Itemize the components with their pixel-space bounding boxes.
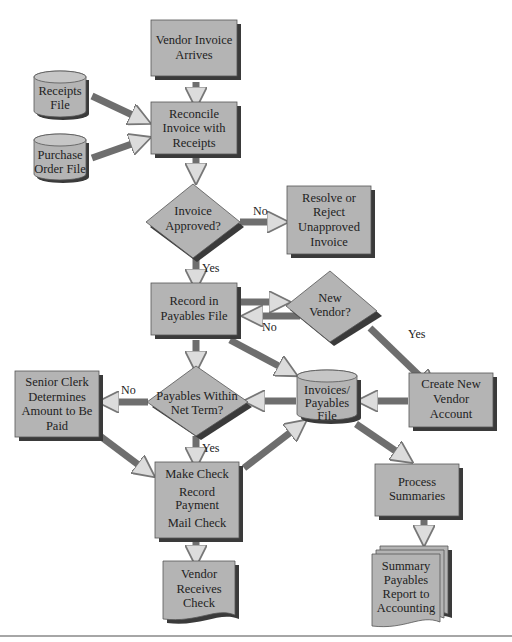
- svg-text:Vendor?: Vendor?: [309, 305, 351, 319]
- edge-record-to-file: [230, 340, 290, 372]
- node-invoice-approved-decision: Invoice Approved?: [146, 184, 244, 262]
- svg-text:Vendor: Vendor: [433, 392, 470, 406]
- edge-po-to-reconcile: [92, 140, 143, 158]
- svg-text:Report to: Report to: [383, 587, 430, 601]
- svg-text:Invoice: Invoice: [310, 235, 348, 249]
- svg-text:Receipts: Receipts: [38, 84, 81, 98]
- svg-text:Invoice: Invoice: [174, 204, 212, 218]
- svg-text:Receives: Receives: [176, 582, 221, 596]
- svg-text:Payables Within: Payables Within: [156, 389, 238, 403]
- edge-label-approved-yes: Yes: [202, 261, 220, 275]
- node-process-summaries: Process Summaries: [375, 464, 463, 520]
- edge-file-to-summaries: [356, 424, 406, 458]
- svg-text:New: New: [318, 291, 342, 305]
- svg-text:Record in: Record in: [170, 294, 220, 308]
- svg-text:Invoice with: Invoice with: [163, 121, 227, 135]
- edge-label-new-vendor-yes: Yes: [408, 327, 426, 341]
- flowchart-canvas: Vendor Invoice Arrives Receipts File Pur…: [0, 0, 512, 642]
- node-reconcile-invoice: Reconcile Invoice with Receipts: [151, 102, 241, 158]
- svg-text:Process: Process: [398, 475, 436, 489]
- svg-text:Determines: Determines: [28, 390, 86, 404]
- edge-makecheck-to-file: [244, 425, 300, 468]
- node-payables-within-decision: Payables Within Net Term?: [147, 366, 252, 440]
- node-make-check: Make Check Record Payment Mail Check: [155, 462, 243, 542]
- edge-clerk-to-makecheck: [100, 436, 148, 472]
- node-invoices-payables-file: Invoices/ Payables File: [297, 370, 361, 424]
- svg-text:Reconcile: Reconcile: [169, 107, 219, 121]
- svg-text:Receipts: Receipts: [172, 136, 215, 150]
- svg-text:Create New: Create New: [421, 377, 480, 391]
- svg-text:Payables: Payables: [305, 396, 350, 410]
- edge-label-approved-no: No: [253, 204, 268, 218]
- svg-text:File: File: [317, 409, 337, 423]
- svg-text:Record: Record: [179, 485, 216, 499]
- svg-text:Summary: Summary: [382, 559, 431, 573]
- edge-label-within-no: No: [121, 383, 136, 397]
- node-summary-payables-report: Summary Payables Report to Accounting: [372, 546, 452, 627]
- node-vendor-invoice-arrives: Vendor Invoice Arrives: [151, 20, 241, 80]
- svg-text:Account: Account: [430, 407, 473, 421]
- svg-text:Payment: Payment: [175, 498, 219, 512]
- svg-text:Make Check: Make Check: [165, 467, 229, 481]
- svg-text:Order File: Order File: [34, 162, 86, 176]
- node-create-vendor-account: Create New Vendor Account: [409, 373, 497, 431]
- edge-label-new-vendor-no: No: [262, 320, 277, 334]
- svg-text:Net Term?: Net Term?: [171, 403, 224, 417]
- node-senior-clerk: Senior Clerk Determines Amount to Be Pai…: [15, 371, 103, 441]
- svg-text:Resolve or: Resolve or: [302, 191, 357, 205]
- node-receipts-file: Receipts File: [34, 71, 89, 120]
- svg-text:Invoices/: Invoices/: [304, 383, 350, 397]
- node-purchase-order-file: Purchase Order File: [34, 134, 89, 183]
- node-record-payables: Record in Payables File: [151, 283, 241, 339]
- svg-text:Accounting: Accounting: [377, 601, 436, 615]
- svg-text:Payables File: Payables File: [160, 309, 227, 323]
- svg-text:Amount to Be: Amount to Be: [22, 404, 93, 418]
- svg-text:File: File: [50, 98, 70, 112]
- svg-text:Summaries: Summaries: [389, 489, 445, 503]
- svg-text:Mail Check: Mail Check: [168, 516, 227, 530]
- svg-text:Reject: Reject: [313, 205, 345, 219]
- svg-text:Purchase: Purchase: [37, 148, 83, 162]
- svg-text:Check: Check: [183, 596, 216, 610]
- node-vendor-receives-check: Vendor Receives Check: [163, 561, 239, 624]
- svg-text:Vendor: Vendor: [181, 567, 218, 581]
- edge-receipts-to-reconcile: [92, 96, 143, 120]
- svg-text:Unapproved: Unapproved: [298, 220, 361, 234]
- svg-text:Vendor Invoice: Vendor Invoice: [156, 33, 233, 47]
- svg-text:Arrives: Arrives: [175, 48, 213, 62]
- svg-text:Senior Clerk: Senior Clerk: [25, 375, 89, 389]
- node-resolve-reject: Resolve or Reject Unapproved Invoice: [287, 186, 375, 258]
- svg-text:Paid: Paid: [46, 419, 69, 433]
- edge-label-within-yes: Yes: [202, 441, 220, 455]
- svg-text:Approved?: Approved?: [165, 219, 221, 233]
- node-new-vendor-decision: New Vendor?: [286, 271, 382, 346]
- svg-text:Payables: Payables: [384, 573, 429, 587]
